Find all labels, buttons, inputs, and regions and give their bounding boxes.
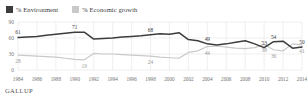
point-label-environment-2010: 53	[261, 40, 266, 46]
series-line-environment	[18, 32, 302, 48]
point-label-environment-2004: 49	[205, 36, 210, 42]
gallup-brand-footer: GALLUP	[5, 87, 33, 95]
x-tick-2012: 2012	[278, 76, 288, 82]
point-label-economic-growth-1984: 28	[15, 58, 20, 64]
legend-swatch-environment-icon	[6, 6, 13, 13]
x-tick-2002: 2002	[183, 76, 193, 82]
x-tick-1984: 1984	[13, 76, 23, 82]
x-axis-labels: 1984198619881990199219941996199820002002…	[0, 76, 308, 86]
legend-swatch-economic-growth-icon	[72, 6, 79, 13]
x-tick-2000: 2000	[164, 76, 174, 82]
point-label-environment-2011: 54	[271, 34, 276, 40]
y-tick-60: 60	[2, 35, 14, 41]
gallup-line-chart: % Environment % Economic growth 9060300 …	[0, 0, 308, 99]
legend-label-environment: % Environment	[16, 6, 58, 13]
x-tick-1986: 1986	[32, 76, 42, 82]
x-tick-1988: 1988	[51, 76, 61, 82]
legend-label-economic-growth: % Economic growth	[82, 6, 137, 13]
point-label-economic-growth-2014: 41	[299, 48, 304, 54]
x-tick-2010: 2010	[259, 76, 269, 82]
legend-item-environment[interactable]: % Environment	[6, 6, 58, 13]
point-label-economic-growth-2004: 44	[205, 50, 210, 56]
x-tick-2008: 2008	[240, 76, 250, 82]
x-tick-1992: 1992	[89, 76, 99, 82]
point-label-economic-growth-1998: 24	[148, 59, 153, 65]
point-label-economic-growth-1991: 19	[82, 63, 87, 69]
legend-item-economic-growth[interactable]: % Economic growth	[72, 6, 137, 13]
point-label-economic-growth-2011: 36	[271, 53, 276, 59]
point-label-environment-1998: 68	[148, 27, 153, 33]
point-label-economic-growth-2010: 38	[261, 47, 266, 53]
point-label-environment-1984: 61	[15, 29, 20, 35]
plot-area: 9060300 6171684953545028192444383641	[0, 18, 308, 76]
point-label-environment-1990: 71	[72, 24, 77, 30]
x-tick-2006: 2006	[221, 76, 231, 82]
point-label-environment-2014: 50	[299, 39, 304, 45]
y-tick-0: 0	[2, 67, 14, 73]
x-tick-1990: 1990	[70, 76, 80, 82]
chart-legend: % Environment % Economic growth	[6, 3, 137, 15]
x-tick-2004: 2004	[202, 76, 212, 82]
x-tick-1998: 1998	[145, 76, 155, 82]
series-lines	[18, 32, 302, 60]
y-tick-30: 30	[2, 51, 14, 57]
x-tick-1994: 1994	[107, 76, 117, 82]
x-tick-1996: 1996	[126, 76, 136, 82]
y-tick-90: 90	[2, 19, 14, 25]
x-tick-2014: 2014	[297, 76, 307, 82]
